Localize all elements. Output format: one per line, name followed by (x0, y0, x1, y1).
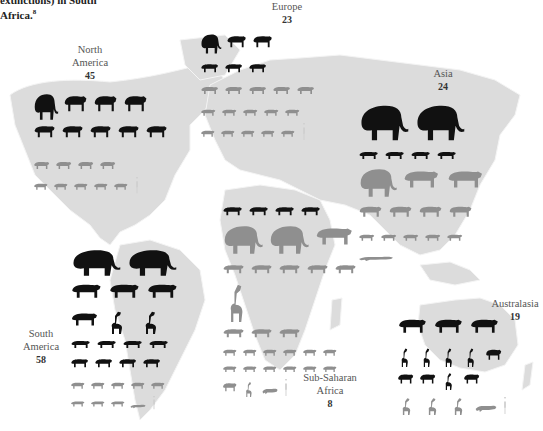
horse-silhouette-icon (33, 123, 57, 145)
hippo-silhouette-icon (222, 327, 246, 343)
toxodon-silhouette-icon (70, 281, 104, 307)
mammoth-silhouette-icon (414, 103, 466, 143)
silhouette-row-south-america-3 (70, 337, 174, 353)
steppe-bison-silhouette-icon (224, 62, 244, 78)
rhino-silhouette-icon (384, 150, 406, 164)
bison-silhouette-icon (63, 92, 89, 122)
pangolin-silhouette-icon (222, 381, 238, 397)
rhino-silhouette-icon (222, 263, 246, 279)
human-silhouette-icon (282, 379, 290, 397)
emu-silhouette-icon (423, 397, 445, 415)
llama-silhouette-icon (110, 381, 126, 393)
gazelle-silhouette-icon (262, 348, 278, 360)
silhouette-row-north-america-1 (33, 125, 173, 145)
armadillo-silhouette-icon (122, 339, 144, 353)
crocodile-silhouette-icon (358, 251, 394, 263)
caribou-silhouette-icon (33, 160, 51, 174)
silhouette-row-asia-5 (358, 248, 398, 263)
antelope-silhouette-icon (274, 205, 296, 221)
stegodon-silhouette-icon (358, 103, 410, 143)
hyena-silhouette-icon (282, 365, 298, 376)
sloth-silhouette-icon (138, 310, 168, 334)
bear-silhouette-icon (113, 182, 129, 194)
glyptodont-silhouette-icon (70, 339, 92, 353)
gazelle-silhouette-icon (282, 348, 298, 360)
pig-silhouette-icon (334, 263, 358, 279)
wombat-silhouette-icon (485, 347, 503, 367)
short-faced-bear-silhouette-icon (89, 123, 113, 145)
ibex-silhouette-icon (284, 108, 301, 120)
buffalo-silhouette-icon (222, 348, 238, 360)
ground-sloth-silhouette-icon (146, 281, 180, 307)
bison-silhouette-icon (448, 204, 474, 224)
reindeer-silhouette-icon (224, 85, 244, 99)
silhouette-row-south-america-2 (70, 310, 172, 334)
gomphothere-silhouette-icon (70, 248, 122, 278)
lion-silhouette-icon (402, 233, 420, 245)
silhouette-row-south-america-6 (70, 396, 162, 410)
muskox-silhouette-icon (77, 160, 95, 174)
leopard-silhouette-icon (380, 233, 398, 245)
rhino-silhouette-icon (446, 167, 486, 199)
bison-silhouette-icon (242, 108, 259, 120)
deer-silhouette-icon (220, 129, 236, 141)
rhino-silhouette-icon (358, 204, 384, 224)
gaur-silhouette-icon (388, 204, 414, 224)
horse-silhouette-icon (61, 123, 85, 145)
silhouette-row-australasia-1 (397, 345, 507, 367)
mammoth-silhouette-icon (200, 33, 222, 55)
antelope-silhouette-icon (262, 365, 278, 376)
silhouette-row-australasia-2 (397, 370, 485, 390)
wombat-silhouette-icon (469, 316, 501, 342)
glyptodont-silhouette-icon (108, 281, 142, 307)
bear-silhouette-icon (93, 92, 119, 122)
warthog-silhouette-icon (302, 348, 318, 360)
silhouette-row-europe-4 (200, 123, 312, 141)
region-label-europe: Europe 23 (262, 0, 312, 26)
tiger-silhouette-icon (358, 233, 376, 245)
boar-silhouette-icon (221, 108, 238, 120)
reindeer-silhouette-icon (200, 108, 217, 120)
region-count: 24 (425, 80, 461, 93)
silhouette-row-sub-saharan-africa-3 (222, 282, 260, 322)
zebra-silhouette-icon (300, 205, 322, 221)
zebra-silhouette-icon (278, 263, 302, 279)
wildebeest-silhouette-icon (222, 365, 238, 376)
human-silhouette-icon (501, 397, 509, 415)
deer-silhouette-icon (272, 85, 292, 99)
genyornis-silhouette-icon (441, 372, 459, 390)
horse-silhouette-icon (94, 357, 114, 373)
bear-silhouette-icon (280, 129, 296, 141)
silhouette-row-north-america-0 (33, 92, 153, 122)
region-label-sub-saharan-africa: Sub-Saharan Africa 8 (295, 371, 365, 410)
muskox-silhouette-icon (263, 108, 280, 120)
bear-silhouette-icon (110, 400, 126, 410)
silhouette-row-europe-1 (200, 58, 272, 78)
tapir-silhouette-icon (358, 150, 380, 164)
ground-sloth-silhouette-icon (70, 310, 100, 334)
gomphothere-silhouette-icon (126, 248, 178, 278)
tapir-silhouette-icon (402, 167, 442, 199)
landmass-new-zealand (522, 362, 533, 390)
kangaroo-silhouette-icon (441, 347, 459, 367)
giraffe-silhouette-icon (222, 282, 256, 322)
lion-silhouette-icon (117, 123, 141, 145)
region-label-asia: Asia 24 (425, 67, 461, 93)
bear-silhouette-icon (424, 233, 442, 245)
bear-silhouette-icon (410, 150, 432, 164)
silhouette-row-sub-saharan-africa-2 (222, 259, 362, 279)
silhouette-row-asia-0 (358, 103, 470, 143)
silhouette-row-south-america-5 (70, 376, 170, 393)
crocodile-silhouette-icon (475, 397, 497, 415)
silhouette-row-australasia-0 (397, 316, 505, 342)
anteater-silhouette-icon (150, 381, 166, 393)
red-deer-silhouette-icon (248, 85, 268, 99)
wombat-silhouette-icon (433, 316, 465, 342)
antelope-silhouette-icon (322, 348, 338, 360)
silhouette-row-europe-2 (200, 81, 320, 99)
moose-silhouette-icon (55, 160, 73, 174)
glyptodont-silhouette-icon (96, 339, 118, 353)
sheep-silhouette-icon (33, 182, 49, 194)
region-label-south-america: South America 58 (16, 327, 66, 366)
antelope-silhouette-icon (322, 365, 338, 376)
